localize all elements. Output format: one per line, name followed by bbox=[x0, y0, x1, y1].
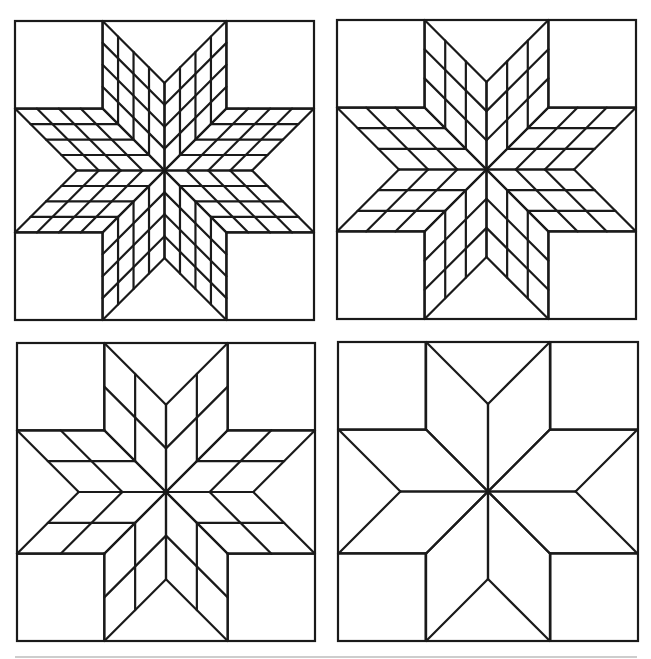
star-block-4x4 bbox=[15, 21, 314, 320]
star-block-3x3 bbox=[337, 20, 636, 319]
star-block-2x2 bbox=[17, 343, 315, 641]
quilt-diagram bbox=[0, 0, 651, 659]
blocks-layer bbox=[15, 20, 638, 641]
star-block-1x1 bbox=[338, 342, 638, 641]
